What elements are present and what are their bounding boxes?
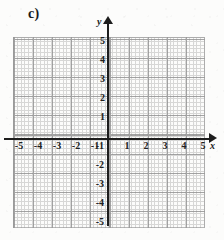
y-tick-label: -2 — [90, 160, 104, 170]
y-tick-label: -1 — [90, 141, 104, 151]
y-tick-label: 3 — [91, 74, 105, 84]
x-tick-label: -2 — [68, 141, 84, 151]
x-tick-label: -4 — [30, 141, 46, 151]
y-tick-label: 1 — [91, 112, 105, 122]
x-tick-label: 5 — [195, 141, 211, 151]
grid-border — [13, 37, 205, 228]
coordinate-grid[interactable]: x y -5 -4 -3 -2 -1 1 2 3 4 5 5 4 3 2 1 -… — [13, 37, 205, 228]
y-tick-label: -5 — [90, 217, 104, 227]
y-tick-label: -3 — [90, 179, 104, 189]
x-tick-label: -5 — [11, 141, 27, 151]
x-tick-label: 3 — [157, 141, 173, 151]
x-tick-label: 4 — [176, 141, 192, 151]
x-tick-label: -3 — [49, 141, 65, 151]
y-tick-label: 4 — [91, 55, 105, 65]
worksheet-page: c) x y -5 -4 -3 -2 -1 1 2 3 4 5 5 4 3 2 … — [0, 0, 224, 240]
y-tick-label: 5 — [91, 36, 105, 46]
y-axis-line — [107, 21, 109, 226]
x-tick-label: 2 — [138, 141, 154, 151]
y-tick-label: 2 — [91, 93, 105, 103]
y-axis-label: y — [97, 16, 101, 27]
x-tick-label: 1 — [119, 141, 135, 151]
arrow-up-icon — [103, 16, 113, 24]
y-tick-label: -4 — [90, 198, 104, 208]
problem-part-label: c) — [28, 6, 39, 22]
